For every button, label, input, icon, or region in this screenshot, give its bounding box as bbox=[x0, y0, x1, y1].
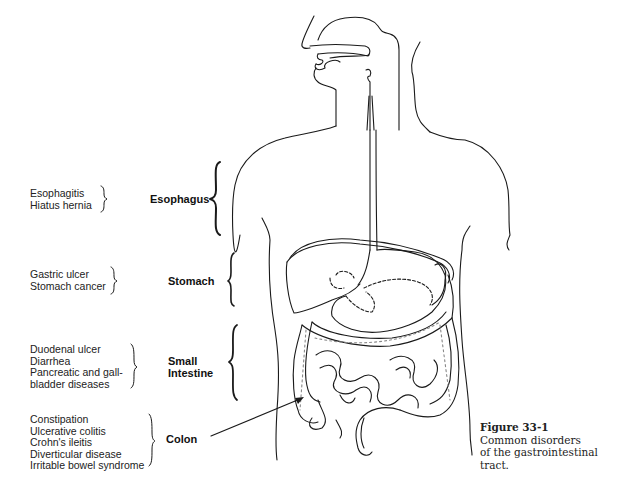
organ-label-small-intestine: Small Intestine bbox=[168, 355, 213, 379]
small-intestine bbox=[310, 351, 438, 438]
esophagus-disorders-list: Esophagitis Hiatus hernia bbox=[30, 188, 92, 211]
caption-line: tract. bbox=[480, 459, 598, 472]
esophagus-bracket bbox=[210, 162, 220, 235]
disorder-item: Stomach cancer bbox=[30, 281, 106, 293]
small-intestine-disorders-bracket bbox=[131, 344, 137, 388]
stomach-disorders-list: Gastric ulcer Stomach cancer bbox=[30, 269, 106, 292]
esophagus-disorders-bracket bbox=[101, 186, 107, 212]
disorder-item: Esophagitis bbox=[30, 188, 92, 200]
figure-caption: Figure 33-1 Common disorders of the gast… bbox=[480, 421, 598, 471]
colon bbox=[293, 275, 459, 455]
organ-label-colon: Colon bbox=[166, 433, 197, 445]
organ-label-esophagus: Esophagus bbox=[150, 193, 209, 205]
figure-title: Figure 33-1 bbox=[480, 421, 598, 434]
caption-line: Common disorders bbox=[480, 434, 598, 447]
small-intestine-bracket bbox=[229, 325, 237, 400]
stomach-bracket bbox=[228, 253, 234, 306]
disorder-item: bladder diseases bbox=[30, 379, 123, 391]
disorder-item: Duodenal ulcer bbox=[30, 344, 123, 356]
colon-arrow bbox=[211, 397, 304, 436]
caption-line: of the gastrointestinal bbox=[480, 446, 598, 459]
organ-label-stomach: Stomach bbox=[168, 275, 214, 287]
disorder-item: Irritable bowel syndrome bbox=[30, 460, 144, 472]
disorder-item: Constipation bbox=[30, 414, 144, 426]
head-profile bbox=[302, 16, 430, 132]
stomach bbox=[330, 249, 446, 332]
stomach-disorders-bracket bbox=[111, 267, 117, 294]
disorder-item: Hiatus hernia bbox=[30, 200, 92, 212]
colon-disorders-bracket bbox=[149, 414, 155, 466]
small-intestine-disorders-list: Duodenal ulcer Diarrhea Pancreatic and g… bbox=[30, 344, 123, 390]
esophagus bbox=[370, 130, 377, 250]
disorder-item: Gastric ulcer bbox=[30, 269, 106, 281]
colon-disorders-list: Constipation Ulcerative colitis Crohn's … bbox=[30, 414, 144, 472]
